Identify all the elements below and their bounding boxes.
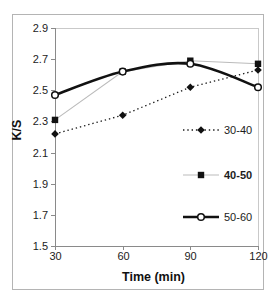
y-tick-label: 1.5	[33, 240, 48, 252]
legend-label: 50-60	[224, 211, 252, 223]
y-tick-label: 1.7	[33, 209, 48, 221]
filled-square-legend-icon	[198, 172, 204, 178]
figure: 2.92.72.52.32.11.91.71.5306090120Time (m…	[0, 0, 276, 304]
y-axis-title: K/S	[10, 120, 24, 141]
y-tick-label: 2.3	[33, 115, 48, 127]
y-tick-label: 2.9	[33, 22, 48, 34]
legend-label: 30-40	[224, 124, 252, 136]
filled-diamond-legend-icon	[197, 126, 205, 134]
series-line-40-50	[55, 61, 258, 120]
x-axis-title: Time (min)	[122, 270, 185, 284]
series-40-50-marker-filled-square	[255, 61, 261, 67]
y-tick-label: 2.5	[33, 84, 48, 96]
series-50-60-marker-open-circle	[119, 68, 126, 75]
x-tick-label: 60	[117, 250, 129, 262]
series-30-40-marker-filled-diamond	[187, 83, 195, 91]
legend-item-30-40: 30-40	[183, 124, 252, 136]
legend-item-40-50: 40-50	[183, 169, 252, 181]
legend-item-50-60: 50-60	[183, 211, 252, 223]
legend: 30-4040-5050-60	[183, 124, 252, 223]
series-50-60-marker-open-circle	[187, 61, 194, 68]
series-line-50-60	[55, 63, 258, 95]
y-tick-label: 1.9	[33, 178, 48, 190]
legend-label: 40-50	[224, 169, 252, 181]
x-tick-label: 120	[249, 250, 267, 262]
chart-svg: 2.92.72.52.32.11.91.71.5306090120Time (m…	[0, 0, 276, 304]
series-50-60-marker-open-circle	[255, 84, 262, 91]
x-tick-label: 90	[184, 250, 196, 262]
series-30-40-marker-filled-diamond	[51, 130, 59, 138]
series-30-40-marker-filled-diamond	[254, 66, 262, 74]
y-tick-label: 2.7	[33, 53, 48, 65]
series-30-40-marker-filled-diamond	[119, 111, 127, 119]
open-circle-legend-icon	[198, 214, 205, 221]
figure-border	[13, 15, 264, 290]
y-tick-label: 2.1	[33, 147, 48, 159]
series-50-60-marker-open-circle	[52, 92, 59, 99]
x-tick-label: 30	[49, 250, 61, 262]
series-40-50-marker-filled-square	[52, 117, 58, 123]
